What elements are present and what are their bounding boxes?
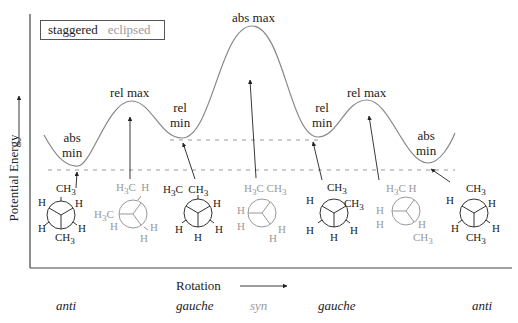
n2-r: H [150, 220, 158, 235]
n5-ll: H [306, 223, 314, 238]
n3-top: H3C CH3 [163, 182, 208, 201]
conformation-anti-1: anti [56, 298, 76, 313]
newman-anti-1 [45, 197, 77, 229]
label-abs-min-2: absmin [416, 128, 436, 158]
n1-lr: H [78, 221, 86, 236]
conformation-gauche-2: gauche [318, 298, 356, 313]
arrow-abs-max [250, 80, 256, 178]
n3-b: H [194, 230, 202, 245]
n3-ur: H [213, 196, 221, 211]
label-abs-min-1: absmin [62, 130, 82, 160]
n2-ll: H [110, 219, 118, 234]
legend: staggeredeclipsed [40, 20, 165, 40]
n6-l2: H [376, 217, 384, 232]
conformation-syn: syn [250, 298, 267, 313]
n5-lr: H [350, 223, 358, 238]
arrow-rel-min-1 [183, 143, 195, 179]
n5-b: H [330, 230, 338, 245]
newman-eclipsed-2 [392, 197, 420, 225]
n1-ur: H [75, 196, 83, 211]
label-rel-min-2: relmin [312, 100, 332, 130]
n4-top: H3C CH3 [244, 181, 286, 200]
n6-b: CH3 [413, 230, 433, 249]
n4-l2: H [237, 219, 245, 234]
legend-staggered: staggered [48, 22, 98, 37]
newman-anti-2 [458, 199, 490, 227]
conformation-anti-2: anti [472, 298, 492, 313]
n5-ul: H [306, 193, 314, 208]
n7-ur: H [488, 196, 496, 211]
label-rel-max-2: rel max [347, 85, 386, 100]
n3-ll: H [175, 222, 183, 237]
newman-syn [248, 199, 276, 227]
arrow-rel-min-2 [313, 142, 322, 180]
n5-ur: CH3 [344, 196, 364, 215]
n4-b: H [269, 231, 277, 246]
n4-l1: H [237, 203, 245, 218]
label-abs-max: abs max [232, 10, 275, 25]
conformation-gauche-1: gauche [176, 298, 214, 313]
n1-ll: H [38, 221, 46, 236]
energy-curve [44, 26, 455, 166]
label-rel-max-1: rel max [110, 85, 149, 100]
n7-top: CH3 [466, 181, 486, 200]
n7-ll: H [451, 221, 459, 236]
n6-l1: H [376, 203, 384, 218]
n3-lr: H [215, 222, 223, 237]
conformational-energy-diagram: staggeredeclipsed Potential Energy Rotat… [0, 0, 518, 323]
newman-eclipsed-1 [119, 196, 148, 230]
n2-top: H3C H [116, 180, 149, 199]
legend-eclipsed: eclipsed [108, 22, 151, 37]
n7-ul: H [446, 193, 454, 208]
n1-bottom: CH3 [55, 230, 75, 249]
diagram-svg [0, 0, 518, 323]
n7-lr: H [492, 221, 500, 236]
label-rel-min-1: relmin [170, 100, 190, 130]
n1-ul: H [38, 195, 46, 210]
x-axis-label: Rotation [176, 278, 221, 293]
n7-b: CH3 [466, 230, 486, 249]
n6-top: H3C H [386, 181, 417, 200]
arrow-abs-min-1 [76, 172, 77, 188]
y-axis-label: Potential Energy [6, 118, 22, 238]
n2-b: H [140, 231, 148, 246]
n1-top: CH3 [56, 181, 76, 200]
arrow-abs-min-2 [431, 169, 450, 182]
n4-r: H [278, 222, 286, 237]
